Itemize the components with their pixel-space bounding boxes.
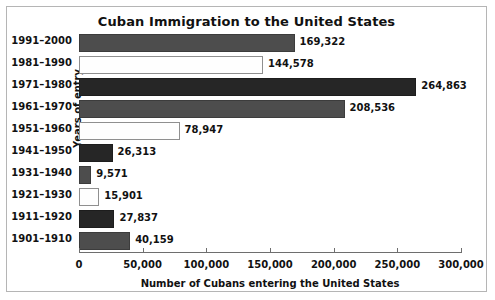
bar-row: 1981–1990144,578 <box>79 55 461 77</box>
x-tick <box>334 248 335 253</box>
bar <box>79 34 295 52</box>
bar <box>79 210 114 228</box>
x-tick <box>79 248 80 253</box>
category-label: 1921–1930 <box>11 189 72 200</box>
x-tick-label: 0 <box>76 259 83 270</box>
category-label: 1941–1950 <box>11 145 72 156</box>
bar <box>79 100 345 118</box>
bar <box>79 144 113 162</box>
x-tick-label: 50,000 <box>123 259 162 270</box>
category-label: 1911–1920 <box>11 211 72 222</box>
x-tick-label: 200,000 <box>311 259 357 270</box>
category-label: 1901–1910 <box>11 233 72 244</box>
bar-value-label: 78,947 <box>185 124 224 135</box>
bar <box>79 56 263 74</box>
bar <box>79 122 180 140</box>
chart-title: Cuban Immigration to the United States <box>7 14 486 29</box>
x-tick <box>206 248 207 253</box>
bar-row: 1941–195026,313 <box>79 143 461 165</box>
category-label: 1981–1990 <box>11 57 72 68</box>
x-tick-label: 300,000 <box>438 259 484 270</box>
category-label: 1951–1960 <box>11 123 72 134</box>
bar <box>79 188 99 206</box>
bar-row: 1951–196078,947 <box>79 121 461 143</box>
bar-row: 1961–1970208,536 <box>79 99 461 121</box>
category-label: 1991–2000 <box>11 35 72 46</box>
bar-value-label: 144,578 <box>268 58 314 69</box>
bar-value-label: 40,159 <box>135 234 174 245</box>
bar-value-label: 15,901 <box>104 190 143 201</box>
bar-row: 1921–193015,901 <box>79 187 461 209</box>
bar-value-label: 169,322 <box>300 36 346 47</box>
category-label: 1931–1940 <box>11 167 72 178</box>
bar-value-label: 27,837 <box>119 212 158 223</box>
chart-frame: Cuban Immigration to the United States Y… <box>6 6 487 292</box>
bar-value-label: 208,536 <box>350 102 396 113</box>
bar-row: 1911–192027,837 <box>79 209 461 231</box>
x-tick <box>461 248 462 253</box>
bar-value-label: 9,571 <box>96 168 128 179</box>
bar-row: 1931–19409,571 <box>79 165 461 187</box>
bar-row: 1991–2000169,322 <box>79 33 461 55</box>
x-tick-label: 250,000 <box>375 259 421 270</box>
x-tick <box>270 248 271 253</box>
bar-value-label: 264,863 <box>421 80 467 91</box>
bar <box>79 78 416 96</box>
category-label: 1971–1980 <box>11 79 72 90</box>
category-label: 1961–1970 <box>11 101 72 112</box>
x-tick <box>143 248 144 253</box>
bar <box>79 232 130 250</box>
x-tick <box>397 248 398 253</box>
bar <box>79 166 91 184</box>
bar-value-label: 26,313 <box>118 146 157 157</box>
x-tick-label: 150,000 <box>247 259 293 270</box>
x-tick-label: 100,000 <box>184 259 230 270</box>
plot-area: Years of entry 1991–2000169,3221981–1990… <box>79 31 461 253</box>
bar-row: 1971–1980264,863 <box>79 77 461 99</box>
x-axis-label: Number of Cubans entering the United Sta… <box>79 278 461 289</box>
